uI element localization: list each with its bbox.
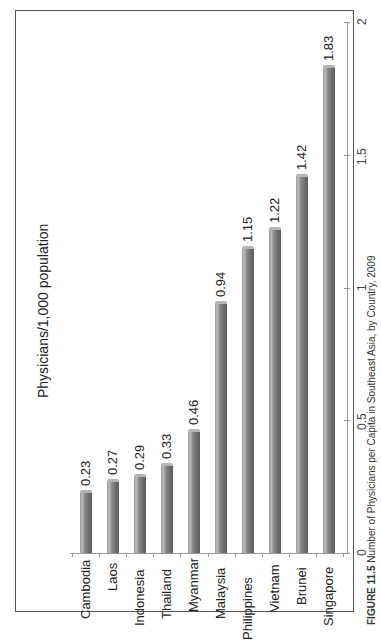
data-label: 1.42 bbox=[294, 145, 309, 170]
category-axis-tick bbox=[180, 553, 181, 557]
value-axis-tick bbox=[344, 288, 350, 289]
category-axis-tick bbox=[126, 553, 127, 557]
data-label: 1.83 bbox=[321, 36, 336, 61]
bar-cambodia bbox=[80, 492, 92, 553]
bar-vietnam bbox=[269, 229, 281, 553]
figure-caption-prefix: FIGURE 11.5 bbox=[366, 566, 377, 625]
category-axis-tick bbox=[153, 553, 154, 557]
category-axis-tick bbox=[316, 553, 317, 557]
category-label: Singapore bbox=[321, 567, 336, 626]
bar-malaysia bbox=[215, 303, 227, 553]
category-label: Vietnam bbox=[267, 565, 282, 612]
value-axis-tick bbox=[344, 155, 350, 156]
category-axis-tick bbox=[99, 553, 100, 557]
data-label: 0.46 bbox=[186, 400, 201, 425]
category-label: Philippines bbox=[240, 577, 255, 640]
data-label: 0.33 bbox=[159, 434, 174, 459]
category-label: Malaysia bbox=[213, 568, 228, 619]
bar-indonesia bbox=[134, 476, 146, 553]
figure-caption-text: Number of Physicians per Capita in South… bbox=[366, 256, 377, 563]
data-label: 0.27 bbox=[105, 450, 120, 475]
bar-brunei bbox=[296, 176, 308, 553]
bar-philippines bbox=[242, 248, 254, 553]
data-label: 0.29 bbox=[132, 445, 147, 470]
category-axis-tick bbox=[235, 553, 236, 557]
category-axis-tick bbox=[343, 553, 344, 557]
figure-caption: FIGURE 11.5 Number of Physicians per Cap… bbox=[366, 256, 377, 625]
bar-thailand bbox=[161, 465, 173, 553]
data-label: 0.23 bbox=[78, 461, 93, 486]
bar-laos bbox=[107, 481, 119, 553]
category-axis-tick bbox=[72, 553, 73, 557]
category-label: Laos bbox=[105, 563, 120, 591]
category-label: Brunei bbox=[294, 567, 309, 605]
value-axis-tick bbox=[344, 553, 350, 554]
category-label: Cambodia bbox=[78, 560, 93, 619]
chart-title: Physicians/1,000 population bbox=[35, 224, 51, 398]
data-label: 0.94 bbox=[213, 272, 228, 297]
data-label: 1.22 bbox=[267, 198, 282, 223]
value-axis-tick bbox=[344, 22, 350, 23]
bar-singapore bbox=[323, 67, 335, 553]
category-axis-tick bbox=[289, 553, 290, 557]
data-label: 1.15 bbox=[240, 216, 255, 241]
value-axis-tick bbox=[344, 420, 350, 421]
category-label: Myanmar bbox=[186, 558, 201, 612]
category-axis-tick bbox=[208, 553, 209, 557]
bar-myanmar bbox=[188, 431, 200, 553]
category-label: Thailand bbox=[159, 569, 174, 619]
value-axis-tick-label: 2 bbox=[355, 19, 369, 26]
category-label: Indonesia bbox=[132, 570, 147, 626]
value-axis-tick-label: 1.5 bbox=[355, 148, 369, 165]
category-axis-tick bbox=[262, 553, 263, 557]
